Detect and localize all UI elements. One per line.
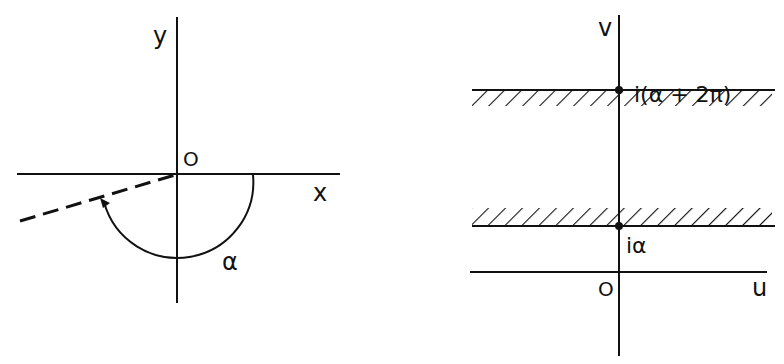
point-upper-icon bbox=[615, 86, 623, 94]
dashed-ray bbox=[20, 175, 175, 221]
arrowhead-icon bbox=[100, 198, 110, 208]
figure-canvas: y O x α v i(α + 2π) iα O u bbox=[0, 0, 784, 364]
lower-point-label: iα bbox=[626, 233, 647, 258]
angle-arc bbox=[104, 175, 253, 258]
x-axis-label: x bbox=[313, 179, 327, 207]
origin-label: O bbox=[183, 147, 199, 171]
left-diagram: y O x α bbox=[17, 17, 340, 303]
lower-hatch bbox=[472, 208, 772, 226]
point-lower-icon bbox=[615, 222, 623, 230]
u-axis-label: u bbox=[752, 274, 767, 302]
v-axis-label: v bbox=[598, 14, 612, 42]
upper-point-label: i(α + 2π) bbox=[634, 82, 731, 107]
y-axis-label: y bbox=[153, 22, 167, 50]
angle-label: α bbox=[222, 248, 238, 276]
origin-label-right: O bbox=[598, 277, 614, 301]
right-diagram: v i(α + 2π) iα O u bbox=[470, 14, 775, 356]
